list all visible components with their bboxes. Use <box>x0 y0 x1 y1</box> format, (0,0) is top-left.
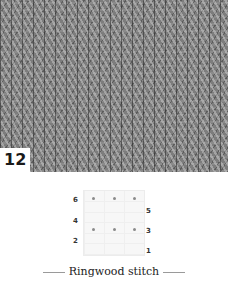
caption-rule-right <box>163 272 185 273</box>
purl-dot <box>113 228 116 231</box>
purl-dot <box>133 197 136 200</box>
purl-dot <box>92 228 95 231</box>
stitch-chart <box>83 190 145 256</box>
knit-swatch-photo <box>0 0 228 172</box>
chart-grid <box>84 191 144 255</box>
row-number-3: 3 <box>146 227 151 235</box>
row-number-6: 6 <box>73 196 78 204</box>
swatch-number-box: 12 <box>0 148 30 173</box>
purl-dot <box>113 197 116 200</box>
swatch-number: 12 <box>4 150 26 169</box>
row-number-4: 4 <box>73 217 78 225</box>
row-number-1: 1 <box>146 247 151 255</box>
row-number-2: 2 <box>73 237 78 245</box>
purl-dot <box>92 197 95 200</box>
purl-dot <box>133 228 136 231</box>
stitch-title: Ringwood stitch <box>0 265 228 278</box>
row-number-5: 5 <box>146 207 151 215</box>
